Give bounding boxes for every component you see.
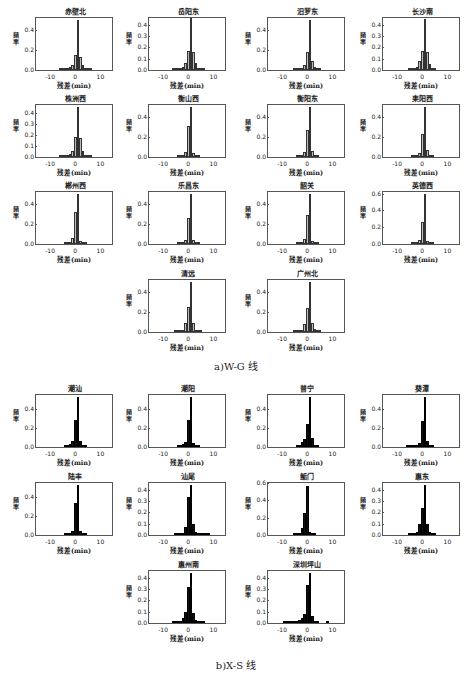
x-tick-label: -10 <box>40 160 60 167</box>
x-tick-label: 0 <box>297 247 317 254</box>
y-tick-mark <box>267 623 269 624</box>
x-tick-label: 0 <box>297 335 317 342</box>
y-tick-label: 0.4 <box>132 201 147 207</box>
histogram-bar <box>316 621 319 623</box>
y-axis-label: 频率 <box>124 293 133 307</box>
y-axis-label: 频率 <box>124 205 133 219</box>
x-tick-label: -10 <box>387 247 407 254</box>
panel-title: 潮汕 <box>35 384 115 393</box>
x-tick-label: -10 <box>272 247 292 254</box>
y-tick-mark <box>35 447 37 448</box>
y-tick-mark <box>267 600 269 601</box>
y-tick-label: 0.4 <box>251 497 266 503</box>
y-tick-label: 0.0 <box>366 154 381 160</box>
y-tick-mark <box>35 50 37 51</box>
y-tick-mark <box>35 497 37 498</box>
plot-area <box>148 482 226 536</box>
y-tick-label: 0.4 <box>19 27 34 33</box>
x-axis-label: 残差(min) <box>35 169 113 177</box>
x-tick-label: 0 <box>65 538 85 545</box>
y-tick-label: 0.4 <box>19 110 34 116</box>
panel-title: 惠东 <box>382 472 462 481</box>
y-tick-label: 0.0 <box>19 67 34 73</box>
y-tick-mark <box>267 428 269 429</box>
y-tick-label: 0.4 <box>366 487 381 493</box>
panel-title: 乐昌东 <box>148 181 228 190</box>
y-tick-mark <box>267 589 269 590</box>
y-tick-label: 0.0 <box>19 154 34 160</box>
x-tick-label: 10 <box>322 160 342 167</box>
histogram-bar <box>314 533 317 535</box>
plot-area <box>267 104 345 158</box>
histogram-panel: 惠州南频率0.00.10.20.30.4-10010残差(min) <box>124 560 234 650</box>
histogram-panel: 长沙南频率0.00.10.20.30.4-10010残差(min) <box>358 7 468 97</box>
x-tick-label: 0 <box>178 538 198 545</box>
y-tick-mark <box>267 30 269 31</box>
y-tick-label: 0.0 <box>132 67 147 73</box>
y-tick-mark <box>382 25 384 26</box>
x-tick-label: 10 <box>90 247 110 254</box>
panel-title: 韶关 <box>267 181 347 190</box>
x-tick-label: 10 <box>437 450 457 457</box>
y-tick-mark <box>35 70 37 71</box>
x-axis-label: 残差(min) <box>267 547 345 555</box>
y-tick-mark <box>35 146 37 147</box>
x-tick-label: 0 <box>412 247 432 254</box>
x-tick-label: -10 <box>153 626 173 633</box>
y-tick-label: 0.2 <box>19 47 34 53</box>
x-tick-label: -10 <box>40 73 60 80</box>
x-tick-label: -10 <box>272 73 292 80</box>
y-tick-mark <box>148 578 150 579</box>
histogram-panel: 清远频率0.00.20.4-10010残差(min) <box>124 269 234 359</box>
x-tick-label: 10 <box>90 73 110 80</box>
y-tick-mark <box>35 30 37 31</box>
histogram-panel: 汕尾频率0.00.10.20.30.4-10010残差(min) <box>124 472 234 562</box>
y-tick-label: 0.4 <box>132 22 147 28</box>
y-tick-mark <box>267 500 269 501</box>
panel-title: 赤壁北 <box>35 7 115 16</box>
histogram-panel: 潮汕频率0.00.20.4-10010残差(min) <box>11 384 121 474</box>
y-tick-label: 0.4 <box>366 114 381 120</box>
plot-area <box>382 17 460 71</box>
panel-title: 广州北 <box>267 269 347 278</box>
x-tick-label: -10 <box>153 247 173 254</box>
y-axis-label: 频率 <box>243 293 252 307</box>
y-tick-label: 0.4 <box>251 289 266 295</box>
y-tick-label: 0.2 <box>19 132 34 138</box>
histogram-panel: 惠东频率0.00.10.20.30.4-10010残差(min) <box>358 472 468 562</box>
y-tick-mark <box>148 312 150 313</box>
y-tick-mark <box>35 224 37 225</box>
y-tick-mark <box>267 117 269 118</box>
histogram-bar <box>326 621 329 623</box>
y-tick-mark <box>35 428 37 429</box>
y-tick-mark <box>382 447 384 448</box>
plot-area <box>382 394 460 448</box>
x-axis-label: 残差(min) <box>267 256 345 264</box>
y-tick-label: 0.0 <box>251 241 266 247</box>
plot-area <box>267 394 345 448</box>
x-tick-label: 10 <box>437 160 457 167</box>
y-tick-mark <box>382 210 384 211</box>
y-tick-label: 0.0 <box>366 241 381 247</box>
y-tick-mark <box>148 224 150 225</box>
plot-area <box>35 191 113 245</box>
y-tick-label: 0.2 <box>366 425 381 431</box>
y-tick-mark <box>267 483 269 484</box>
plot-area <box>148 394 226 448</box>
plot-area <box>35 394 113 448</box>
plot-area <box>148 17 226 71</box>
x-tick-label: 10 <box>90 160 110 167</box>
histogram-bar <box>424 397 427 447</box>
y-tick-label: 0.3 <box>366 33 381 39</box>
y-tick-mark <box>35 124 37 125</box>
histogram-bar <box>190 397 193 447</box>
y-axis-label: 频率 <box>11 31 20 45</box>
y-axis-label: 频率 <box>243 31 252 45</box>
panel-title: 清远 <box>148 269 228 278</box>
x-tick-label: 0 <box>412 73 432 80</box>
histogram-panel: 衡山西频率0.00.20.4-10010残差(min) <box>124 94 234 184</box>
x-tick-label: 0 <box>297 626 317 633</box>
y-tick-label: 0.0 <box>251 444 266 450</box>
y-tick-label: 0.3 <box>366 498 381 504</box>
x-tick-label: -10 <box>153 73 173 80</box>
